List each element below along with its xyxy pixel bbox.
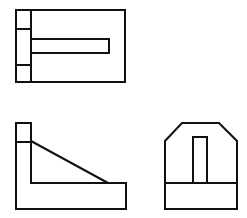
front-view-rib-diagonal: [31, 141, 108, 183]
top-view-slot: [31, 39, 109, 53]
side-view: [165, 123, 237, 209]
front-view: [16, 123, 126, 209]
technical-drawing: [0, 0, 247, 218]
side-view-outline: [165, 123, 237, 209]
side-view-slot: [193, 137, 207, 183]
front-view-outline: [16, 123, 126, 209]
top-view: [16, 10, 125, 82]
